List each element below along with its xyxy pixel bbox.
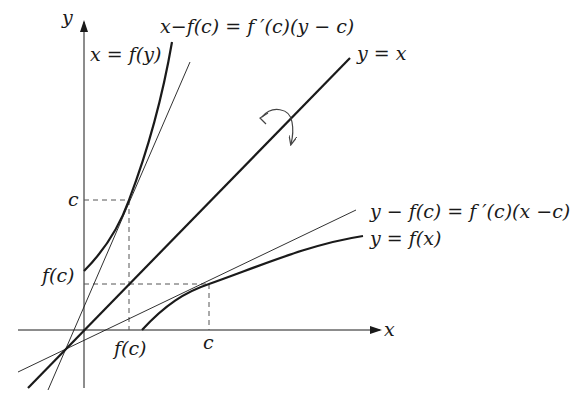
tangent-line	[18, 210, 356, 372]
curve-label: y = f(x)	[369, 227, 441, 249]
curve-inverse	[84, 42, 172, 271]
reflection-arrow-icon	[262, 110, 293, 144]
y-axis-label: y	[61, 6, 73, 28]
inverse-tangent-label: x−f(c) = f ′(c)(y − c)	[160, 15, 354, 37]
x-tick-c: c	[203, 331, 214, 353]
y-tick-c: c	[68, 188, 79, 210]
y-tick-fc: f(c)	[40, 264, 75, 286]
tangent-label: y − f(c) = f ′(c)(x −c)	[369, 200, 570, 222]
diagonal-line	[28, 58, 350, 388]
curve-f	[142, 236, 363, 330]
x-tick-fc: f(c)	[112, 337, 147, 359]
inverse-curve-label: x = f(y)	[90, 43, 161, 65]
diagonal-label: y = x	[356, 42, 407, 64]
diagram-canvas: y x x = f(y) x−f(c) = f ′(c)(y − c) y = …	[0, 0, 588, 407]
x-axis-label: x	[384, 318, 395, 340]
